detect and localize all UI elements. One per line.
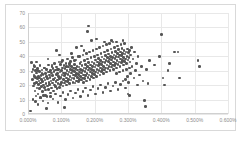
scatter-point (49, 92, 52, 95)
y-axis-tick-label: 70 (19, 11, 25, 16)
scatter-point (95, 38, 98, 41)
scatter-point (80, 45, 83, 48)
scatter-point (103, 41, 106, 44)
scatter-point (115, 41, 118, 44)
scatter-point (58, 54, 61, 57)
scatter-point (73, 59, 76, 62)
scatter-point (178, 77, 181, 80)
scatter-point (83, 49, 86, 52)
scatter-point (160, 33, 163, 36)
scatter-point (109, 69, 112, 72)
scatter-point (95, 48, 98, 51)
scatter-point (60, 61, 63, 64)
scatter-point (116, 45, 119, 48)
scatter-point (88, 51, 91, 54)
scatter-point (136, 84, 139, 87)
scatter-point (80, 61, 83, 64)
scatter-point (173, 51, 176, 54)
scatter-point (158, 55, 161, 58)
scatter-point (62, 85, 65, 88)
scatter-point (148, 59, 151, 62)
scatter-point (78, 55, 81, 58)
scatter-point (145, 68, 148, 71)
scatter-point (68, 82, 71, 85)
scatter-point (162, 77, 165, 80)
scatter-point (112, 68, 115, 71)
scatter-point (92, 77, 95, 80)
scatter-point (143, 99, 146, 102)
scatter-point (66, 58, 69, 61)
gridline-vertical (228, 13, 229, 114)
scatter-point (84, 87, 87, 90)
scatter-point (100, 52, 103, 55)
scatter-point (47, 64, 50, 67)
scatter-point (128, 94, 131, 97)
y-axis-tick-label: 0 (22, 112, 25, 117)
scatter-point (69, 90, 72, 93)
scatter-point (90, 56, 93, 59)
x-axis-tick-label: 0.100% (53, 118, 70, 123)
scatter-point (77, 88, 80, 91)
scatter-point (41, 69, 44, 72)
scatter-point (52, 98, 55, 101)
scatter-point (127, 81, 130, 84)
scatter-point (129, 72, 132, 75)
scatter-point (42, 100, 45, 103)
scatter-point (54, 93, 57, 96)
scatter-point (108, 42, 111, 45)
scatter-point (117, 88, 120, 91)
scatter-point (104, 86, 107, 89)
scatter-point (119, 83, 122, 86)
scatter-point (92, 49, 95, 52)
y-axis-tick-label: 20 (19, 83, 25, 88)
x-axis-tick-label: 0.500% (186, 118, 203, 123)
scatter-points-layer (28, 13, 228, 114)
scatter-point (35, 95, 38, 98)
scatter-point (112, 85, 115, 88)
scatter-point (59, 95, 62, 98)
scatter-point (53, 62, 56, 65)
scatter-point (57, 101, 60, 104)
scatter-point (79, 95, 82, 98)
scatter-point (168, 62, 171, 65)
scatter-point (47, 58, 50, 61)
scatter-point (58, 86, 61, 89)
scatter-point (123, 42, 126, 45)
gridline-horizontal (28, 114, 228, 115)
scatter-point (140, 65, 143, 68)
scatter-point (87, 25, 90, 28)
scatter-point (37, 93, 40, 96)
scatter-point (55, 49, 58, 52)
scatter-point (82, 54, 85, 57)
scatter-point (86, 30, 89, 33)
scatter-point (97, 87, 100, 90)
scatter-point (65, 84, 68, 87)
scatter-point (124, 78, 127, 81)
scatter-point (33, 75, 36, 78)
scatter-point (128, 56, 131, 59)
y-axis-tick-label: 50 (19, 39, 25, 44)
scatter-point (130, 46, 133, 49)
scatter-point (153, 64, 156, 67)
scatter-point (132, 58, 135, 61)
scatter-point (163, 84, 166, 87)
scatter-point (129, 61, 132, 64)
scatter-point (128, 49, 131, 52)
scatter-point (177, 51, 180, 54)
scatter-point (39, 96, 42, 99)
scatter-point (120, 43, 123, 46)
y-axis-tick-label: 30 (19, 68, 25, 73)
x-axis-tick-label: 0.400% (153, 118, 170, 123)
scatter-point (122, 39, 125, 42)
x-axis-tick-label: 0.000% (20, 118, 37, 123)
plot-area: 010203040506070 0.000%0.100%0.200%0.300%… (28, 13, 228, 114)
scatter-point (74, 92, 77, 95)
scatter-point (129, 54, 132, 57)
scatter-point (102, 91, 105, 94)
x-axis-tick-label: 0.600% (220, 118, 237, 123)
scatter-point (147, 82, 150, 85)
x-axis-tick-label: 0.200% (86, 118, 103, 123)
scatter-point (45, 107, 48, 110)
scatter-point (35, 61, 38, 64)
scatter-point (65, 65, 68, 68)
